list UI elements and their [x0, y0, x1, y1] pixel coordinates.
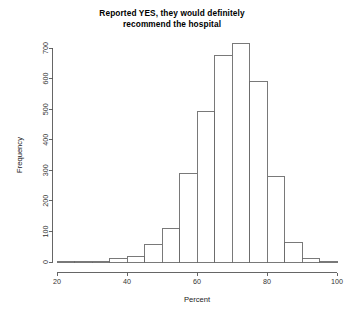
x-axis-title: Percent: [184, 295, 211, 304]
y-axis-tick-label: 500: [41, 103, 50, 115]
histogram-bar: [145, 245, 163, 262]
histogram-bar: [197, 112, 215, 262]
x-axis-tick-label: 100: [331, 277, 343, 286]
plot-area: 0100200300400500600700 20406080100 Perce…: [0, 0, 344, 318]
histogram-bar: [320, 261, 338, 262]
y-axis-tick-label: 200: [41, 195, 50, 207]
y-axis-tick-label: 100: [41, 225, 50, 237]
histogram-bar: [75, 261, 93, 262]
histogram-figure: Reported YES, they would definitely reco…: [0, 0, 344, 318]
histogram-bar: [232, 43, 250, 262]
histogram-bar: [162, 228, 180, 262]
histogram-bar: [127, 257, 145, 263]
y-axis-title: Frequency: [15, 137, 24, 173]
x-axis-tick-label: 80: [263, 277, 271, 286]
histogram-bar: [92, 261, 110, 262]
histogram-bar: [267, 176, 285, 262]
histogram-bar: [57, 261, 75, 262]
histogram-bar: [180, 173, 198, 262]
y-axis-tick-label: 600: [41, 73, 50, 85]
histogram-bar: [285, 242, 303, 262]
x-axis-tick-label: 60: [193, 277, 201, 286]
y-axis-tick-label: 400: [41, 134, 50, 146]
y-axis-tick-label: 0: [41, 260, 50, 264]
histogram-bar: [215, 56, 233, 262]
x-axis: 20406080100: [53, 273, 343, 287]
y-axis-tick-label: 300: [41, 164, 50, 176]
x-axis-tick-label: 20: [53, 277, 61, 286]
histogram-bars: [57, 43, 337, 262]
histogram-bar: [302, 259, 320, 262]
histogram-bar: [110, 258, 128, 262]
y-axis-tick-label: 700: [41, 42, 50, 54]
x-axis-tick-label: 40: [123, 277, 131, 286]
y-axis: 0100200300400500600700: [41, 42, 53, 264]
histogram-bar: [250, 81, 268, 262]
